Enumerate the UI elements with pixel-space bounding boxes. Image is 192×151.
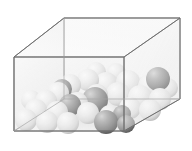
- box-front-face: [14, 57, 124, 131]
- figure-container: Isometric view of an open transparent re…: [0, 0, 192, 151]
- particles-in-box-illustration: [0, 0, 192, 151]
